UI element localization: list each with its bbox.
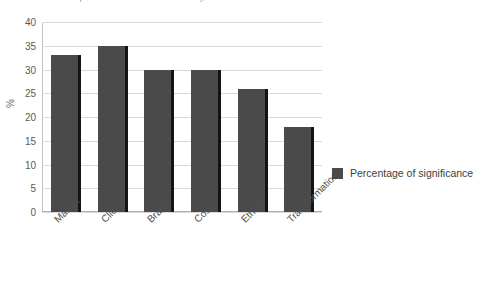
y-axis-tick-label: 15	[25, 135, 36, 146]
bar	[51, 55, 81, 212]
legend-swatch-icon	[332, 168, 343, 179]
source-caption: Source: Data compiled from research and …	[18, 0, 318, 2]
y-axis-tick-label: 35	[25, 40, 36, 51]
bar-slot	[89, 22, 136, 212]
y-axis-tick-label: 25	[25, 88, 36, 99]
bar-series	[42, 22, 322, 212]
y-axis-ticks: 4035302520151050	[0, 22, 36, 212]
y-axis-tick-label: 5	[30, 183, 36, 194]
y-axis-tick-label: 30	[25, 64, 36, 75]
x-axis-labels: MarketClientBrandCostEthicsTransformatio…	[42, 213, 322, 281]
bar-slot	[135, 22, 182, 212]
y-axis-tick-label: 0	[30, 207, 36, 218]
y-axis-tick-label: 20	[25, 112, 36, 123]
bar-chart-figure: Source: Data compiled from research and …	[0, 0, 480, 281]
bar-slot	[182, 22, 229, 212]
y-axis-label: %	[5, 99, 16, 108]
bar-slot	[42, 22, 89, 212]
bar	[144, 70, 174, 213]
bar	[191, 70, 221, 213]
bar-slot	[229, 22, 276, 212]
bar	[98, 46, 128, 212]
bar-slot	[275, 22, 322, 212]
bar	[238, 89, 268, 213]
y-axis-tick-label: 40	[25, 17, 36, 28]
legend-label: Percentage of significance	[350, 167, 473, 179]
legend: Percentage of significance	[332, 167, 473, 179]
y-axis-tick-label: 10	[25, 159, 36, 170]
